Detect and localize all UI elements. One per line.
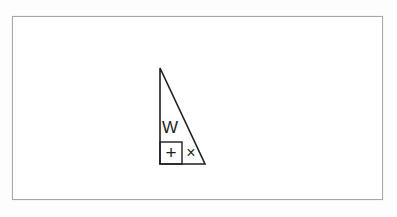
plus-sign-glyph: + bbox=[165, 142, 176, 163]
times-sign-glyph: × bbox=[186, 144, 195, 161]
letter-w-glyph: W bbox=[162, 118, 178, 137]
right-triangle-figure: W + × bbox=[0, 0, 397, 217]
screenshot-canvas: W + × Right triangle containing the lett… bbox=[0, 0, 397, 217]
